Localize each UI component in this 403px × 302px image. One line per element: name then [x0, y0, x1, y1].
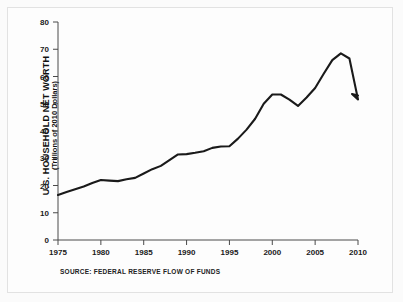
- y-tick-label: 30: [40, 154, 49, 163]
- x-axis-tick-labels: 1975 1980 1985 1990 1995 2000 2005 2010: [49, 248, 367, 257]
- y-axis-tick-labels: 0 10 20 30 40 50 60 70 80: [40, 18, 49, 245]
- chart-page: U.S. HOUSEHOLD NET WORTH (Trillions of 2…: [0, 0, 403, 302]
- plot-area: 0 10 20 30 40 50 60 70 80: [0, 0, 403, 302]
- x-tick-label: 2010: [349, 248, 367, 257]
- y-tick-label: 80: [40, 18, 49, 27]
- x-tick-label: 1975: [49, 248, 67, 257]
- y-axis-ticks: [53, 22, 58, 240]
- y-tick-label: 40: [40, 127, 49, 136]
- x-tick-label: 1995: [221, 248, 239, 257]
- y-tick-label: 20: [40, 182, 49, 191]
- x-tick-label: 2005: [306, 248, 324, 257]
- y-tick-label: 0: [45, 236, 50, 245]
- y-tick-label: 50: [40, 100, 49, 109]
- x-tick-label: 1990: [178, 248, 196, 257]
- x-tick-label: 1985: [135, 248, 153, 257]
- y-tick-label: 60: [40, 73, 49, 82]
- y-tick-label: 10: [40, 209, 49, 218]
- x-tick-label: 2000: [263, 248, 281, 257]
- net-worth-line-series: [58, 53, 358, 195]
- y-tick-label: 70: [40, 45, 49, 54]
- x-tick-label: 1980: [92, 248, 110, 257]
- source-note: SOURCE: FEDERAL RESERVE FLOW OF FUNDS: [60, 268, 220, 275]
- x-axis-ticks: [58, 240, 358, 245]
- line-chart-svg: 0 10 20 30 40 50 60 70 80: [0, 0, 403, 302]
